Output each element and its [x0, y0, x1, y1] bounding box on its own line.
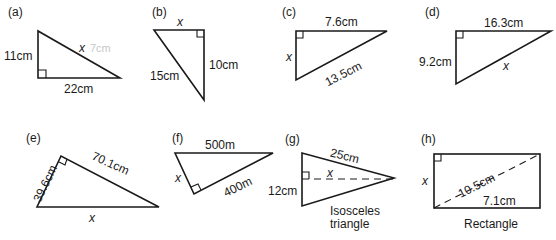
right-angle-marker — [456, 31, 463, 38]
side-d-hypotenuse: x — [502, 59, 510, 73]
side-a-vertical: 11cm — [4, 49, 32, 63]
side-g-height: x — [326, 166, 334, 180]
side-c-top: 7.6cm — [325, 15, 358, 29]
side-b-vertical: 10cm — [209, 58, 238, 72]
side-d-vertical: 9.2cm — [419, 55, 452, 69]
figure-d-label: (d) — [425, 5, 440, 19]
right-angle-marker — [434, 154, 441, 161]
figure-g: (g) 25cm 12cm x Isosceles triangle — [268, 132, 394, 231]
side-g-slant: 25cm — [329, 146, 361, 167]
triangle-b — [154, 30, 204, 100]
side-c-vertical: x — [285, 50, 293, 64]
figure-d: (d) 16.3cm 9.2cm x — [419, 5, 551, 84]
figure-c: (c) 7.6cm x 13.5cm — [282, 5, 387, 89]
caption-g-line2: triangle — [330, 217, 370, 231]
side-f-top: 500m — [205, 138, 235, 152]
side-d-top: 16.3cm — [484, 16, 523, 30]
worksheet-diagram: (a) 11cm 22cm x 7cm (b) x 10cm 15cm (c) … — [0, 0, 556, 240]
figure-a: (a) 11cm 22cm x 7cm — [4, 5, 120, 96]
side-h-width: 7.1cm — [483, 194, 516, 208]
side-f-left: x — [174, 171, 182, 185]
triangle-d — [456, 31, 551, 84]
figure-g-label: (g) — [285, 132, 300, 146]
side-e-base: x — [88, 211, 96, 225]
figure-h: (h) x 10.5cm 7.1cm Rectangle — [421, 132, 540, 231]
side-c-hypotenuse: 13.5cm — [323, 59, 364, 89]
right-angle-marker — [38, 70, 46, 78]
figure-h-label: (h) — [421, 132, 436, 146]
side-b-hypotenuse: 15cm — [150, 69, 179, 83]
caption-h: Rectangle — [464, 217, 518, 231]
figure-a-label: (a) — [8, 5, 23, 19]
side-a-hypotenuse: x — [78, 41, 86, 55]
figure-e: (e) 39.6cm 70.1cm x — [26, 131, 159, 225]
pencil-note: 7cm — [90, 42, 111, 54]
side-e-left: 39.6cm — [30, 163, 60, 205]
side-h-height: x — [421, 174, 429, 188]
right-angle-marker — [59, 159, 67, 165]
figure-c-label: (c) — [282, 5, 296, 19]
caption-g-line1: Isosceles — [330, 204, 380, 218]
figure-e-label: (e) — [26, 131, 41, 145]
right-angle-marker — [296, 31, 303, 38]
side-b-top: x — [176, 15, 184, 29]
right-angle-marker — [302, 172, 309, 179]
figure-f-label: (f) — [172, 131, 183, 145]
side-a-horizontal: 22cm — [64, 82, 93, 96]
figure-f: (f) 500m x 400m — [172, 131, 273, 200]
figure-b: (b) x 10cm 15cm — [150, 5, 238, 100]
side-g-base: 12cm — [268, 184, 297, 198]
right-angle-marker — [197, 30, 204, 37]
figure-b-label: (b) — [152, 5, 167, 19]
